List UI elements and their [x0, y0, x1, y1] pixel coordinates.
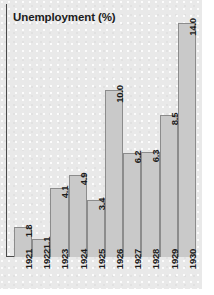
x-tick-label-slot: 1921 [14, 258, 32, 292]
x-axis-labels: 1921192219231924192519261927192819291930 [14, 258, 196, 292]
unemployment-bar-chart: Unemployment (%) 1.81.14.14.93.410.06.26… [0, 0, 214, 295]
x-tick-label-slot: 1928 [141, 258, 159, 292]
bar[interactable]: 8.5 [160, 115, 178, 257]
bar[interactable]: 6.3 [141, 152, 159, 257]
x-tick-label-slot: 1922 [32, 258, 50, 292]
bar[interactable]: 4.9 [69, 175, 87, 257]
bar-slot: 10.0 [105, 0, 123, 257]
bar-slot: 3.4 [87, 0, 105, 257]
x-tick-label: 1930 [187, 249, 198, 269]
x-tick-label-slot: 1926 [105, 258, 123, 292]
bar[interactable]: 6.2 [123, 153, 141, 257]
bar-slot: 1.8 [14, 0, 32, 257]
bar-slot: 6.3 [141, 0, 159, 257]
bar-slot: 1.1 [32, 0, 50, 257]
x-tick-label-slot: 1923 [50, 258, 68, 292]
x-tick-label-slot: 1924 [69, 258, 87, 292]
x-tick-label-slot: 1929 [160, 258, 178, 292]
bars-layer: 1.81.14.14.93.410.06.26.38.514.0 [14, 0, 196, 257]
x-tick-label-slot: 1930 [178, 258, 196, 292]
bar-slot: 8.5 [160, 0, 178, 257]
x-axis-tick-line [6, 256, 14, 257]
bar-slot: 6.2 [123, 0, 141, 257]
bar[interactable]: 14.0 [178, 23, 196, 257]
bar-slot: 4.1 [50, 0, 68, 257]
bar-slot: 4.9 [69, 0, 87, 257]
bar-slot: 14.0 [178, 0, 196, 257]
x-tick-label-slot: 1925 [87, 258, 105, 292]
bar-value-label: 14.0 [187, 18, 198, 36]
bar[interactable]: 10.0 [105, 90, 123, 257]
bar[interactable]: 4.1 [50, 188, 68, 257]
x-tick-label-slot: 1927 [123, 258, 141, 292]
y-axis-line [6, 4, 7, 257]
